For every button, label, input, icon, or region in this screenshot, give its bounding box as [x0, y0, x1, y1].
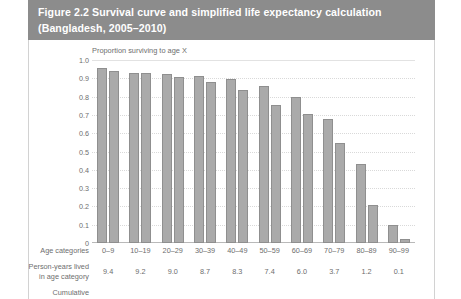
y-axis-tick-label: 0.9 — [49, 74, 89, 83]
age-category-cell: 10–19 — [124, 246, 156, 255]
age-category-cell: 0–9 — [92, 246, 124, 255]
row-label-person-years-line2: in age category — [0, 272, 89, 282]
bar-group — [253, 60, 285, 243]
bar — [259, 86, 269, 243]
bar — [388, 225, 398, 243]
row-label-person-years: Person-years lived in age category — [0, 262, 89, 282]
age-category-cell: 90–99 — [383, 246, 415, 255]
person-years-cell: 9.0 — [157, 267, 189, 276]
bar-group — [157, 60, 189, 243]
figure-panel: Proportion surviving to age X 1.00.90.80… — [28, 40, 435, 299]
bar-group — [124, 60, 156, 243]
person-years-cell: 9.2 — [124, 267, 156, 276]
age-category-cell: 60–69 — [286, 246, 318, 255]
bar-group — [318, 60, 350, 243]
chart-bars — [92, 60, 415, 243]
bar — [226, 79, 236, 243]
person-years-cell: 6.0 — [286, 267, 318, 276]
person-years-cell: 8.7 — [189, 267, 221, 276]
person-years-cell: 3.7 — [318, 267, 350, 276]
y-axis-tick-label: 0.1 — [49, 220, 89, 229]
bar — [109, 71, 119, 243]
row-age-categories: 0–910–1920–2930–3940–4950–5960–6970–7980… — [92, 246, 415, 255]
age-category-cell: 40–49 — [221, 246, 253, 255]
person-years-cell: 9.4 — [92, 267, 124, 276]
bar — [238, 90, 248, 243]
row-label-cumulative: Cumulative — [0, 288, 89, 297]
bar-group — [92, 60, 124, 243]
row-label-person-years-line1: Person-years lived — [0, 262, 89, 272]
bar — [129, 73, 139, 243]
bar — [97, 68, 107, 243]
bar — [194, 76, 204, 243]
bar-group — [221, 60, 253, 243]
y-axis-tick-label: 0.7 — [49, 110, 89, 119]
age-category-cell: 80–89 — [350, 246, 382, 255]
chart-plot-area: 1.00.90.80.70.60.50.40.30.20.10 — [92, 60, 415, 243]
bar — [400, 239, 410, 243]
y-axis-tick-label: 0.6 — [49, 129, 89, 138]
person-years-cell: 7.4 — [253, 267, 285, 276]
y-axis-tick-label: 0.4 — [49, 165, 89, 174]
bar-group — [286, 60, 318, 243]
figure-title-line1: Figure 2.2 Survival curve and simplified… — [38, 4, 425, 20]
person-years-cell: 0.1 — [383, 267, 415, 276]
age-category-cell: 20–29 — [157, 246, 189, 255]
bar-group — [350, 60, 382, 243]
y-axis-title: Proportion surviving to age X — [92, 46, 187, 55]
bar — [162, 74, 172, 243]
bar — [291, 97, 301, 243]
age-category-cell: 30–39 — [189, 246, 221, 255]
bar — [303, 114, 313, 243]
bar-group — [189, 60, 221, 243]
age-category-cell: 70–79 — [318, 246, 350, 255]
y-axis-tick-label: 0.5 — [49, 147, 89, 156]
person-years-cell: 1.2 — [350, 267, 382, 276]
y-axis-tick-label: 1.0 — [49, 56, 89, 65]
row-person-years: 9.49.29.08.78.37.46.03.71.20.1 — [92, 267, 415, 276]
figure-title-line2: (Bangladesh, 2005–2010) — [38, 20, 425, 36]
bar — [141, 73, 151, 243]
figure-header: Figure 2.2 Survival curve and simplified… — [28, 0, 435, 40]
y-axis-tick-label: 0.3 — [49, 184, 89, 193]
row-label-age-categories: Age categories — [0, 246, 89, 255]
bar — [323, 119, 333, 243]
bar — [174, 77, 184, 243]
bar-group — [383, 60, 415, 243]
age-category-cell: 50–59 — [253, 246, 285, 255]
bar — [271, 105, 281, 243]
bar — [356, 164, 366, 243]
y-axis-tick-label: 0.8 — [49, 92, 89, 101]
bar — [206, 82, 216, 243]
bar — [368, 205, 378, 243]
person-years-cell: 8.3 — [221, 267, 253, 276]
bar — [335, 143, 345, 243]
figure-page: Figure 2.2 Survival curve and simplified… — [0, 0, 461, 299]
y-axis-tick-label: 0.2 — [49, 202, 89, 211]
